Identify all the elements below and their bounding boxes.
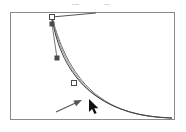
callout-arrow — [56, 100, 82, 112]
callout-arrow-head — [73, 100, 82, 106]
vector-canvas[interactable] — [0, 0, 186, 132]
screenshot-root — [0, 0, 186, 132]
top-tangent-line[interactable] — [52, 13, 96, 17]
anchor-point-mid[interactable] — [72, 81, 77, 86]
direction-point-top[interactable] — [50, 22, 54, 26]
arrow-cursor-body — [89, 99, 98, 114]
arrow-cursor — [88, 98, 99, 115]
direction-point-mid[interactable] — [55, 56, 59, 60]
callout-arrow-shaft — [56, 103, 77, 112]
anchor-point-top[interactable] — [50, 15, 55, 20]
path-edited-curve[interactable] — [52, 17, 172, 118]
